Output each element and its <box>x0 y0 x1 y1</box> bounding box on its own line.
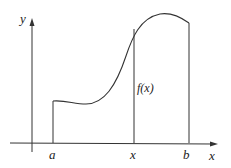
y-axis-label: y <box>18 11 26 26</box>
curve-label: f(x) <box>137 81 154 95</box>
tick-label-x: x <box>129 147 136 162</box>
x-axis <box>10 143 214 144</box>
x-axis-arrow-icon <box>210 142 218 147</box>
x-axis-label: x <box>208 148 215 163</box>
diagram-canvas: y a x b x f(x) <box>0 0 231 168</box>
tick-label-b: b <box>183 147 190 162</box>
function-curve <box>53 14 189 104</box>
tick-label-a: a <box>49 147 56 162</box>
y-axis-arrow-icon <box>30 18 35 26</box>
